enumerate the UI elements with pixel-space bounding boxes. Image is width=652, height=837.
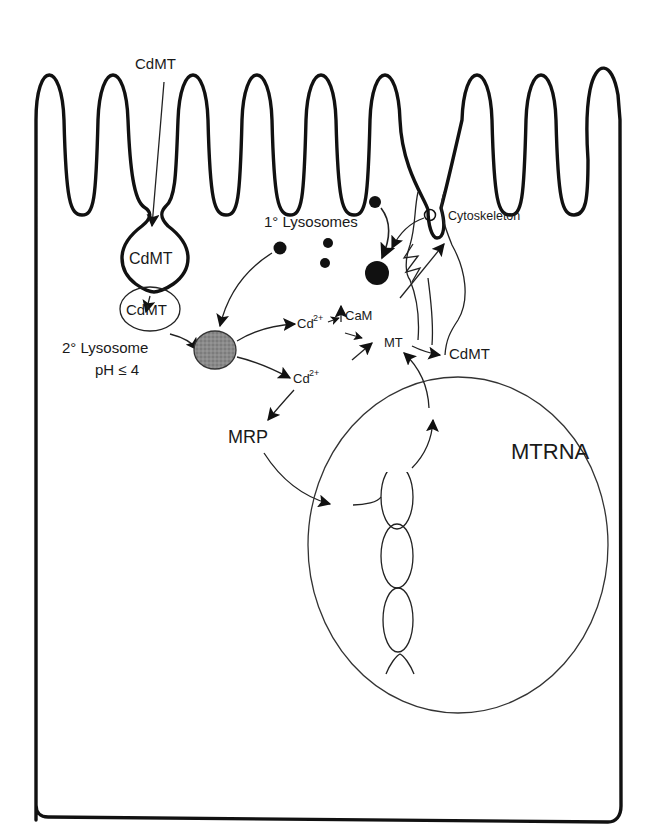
cd-upper-label: Cd (297, 316, 314, 331)
cd-lower-to-mt-arrow (352, 343, 372, 360)
mrna-strand (353, 462, 416, 674)
large-lysosome (365, 261, 389, 285)
primary-lysosome-dot (274, 242, 287, 255)
uptake-arrow (152, 82, 164, 226)
mrp-label: MRP (228, 427, 268, 447)
cdmt-cytosolic-label: CdMT (449, 345, 490, 362)
primary-lysosomes-label: 1° Lysosomes (264, 213, 358, 230)
cd-to-cam-arrow (328, 318, 339, 322)
cytoskeleton-fiber (428, 278, 433, 345)
cdmt-vesicle-label: CdMT (129, 250, 173, 267)
cd-upper-charge: 2+ (313, 313, 323, 323)
cytoskeleton-fiber (406, 192, 418, 340)
cdmt-endosome-label: CdMT (126, 301, 167, 318)
rna-to-mt-arrow (412, 420, 433, 468)
mt-to-cdmt-arrow (412, 346, 440, 355)
cell-diagram: CdMT CdMT CdMT 2° Lysosome pH ≤ 4 1° Lys… (0, 0, 652, 837)
lysosome-to-cd-lower-arrow (237, 357, 290, 378)
primary-lysosome-dot (320, 258, 330, 268)
cd-to-mrp-arrow (268, 390, 294, 420)
nucleus (308, 377, 608, 713)
cytoskeleton-label: Cytoskeleton (448, 209, 520, 223)
primary-lysosome-dot (323, 238, 333, 248)
cd-lower-charge: 2+ (309, 368, 319, 378)
vesicle-to-lysosome-arrow (392, 218, 424, 248)
secondary-lysosome-ph-label: pH ≤ 4 (95, 361, 139, 378)
mtrna-label: MTRNA (511, 439, 590, 464)
lysosome-fusion-arrow (381, 208, 389, 258)
cd-lower-label: Cd (293, 371, 310, 386)
cdmt-extracellular-label: CdMT (135, 55, 176, 72)
secondary-lysosome-label: 2° Lysosome (62, 339, 148, 356)
primary-lysosome-dot (369, 196, 381, 208)
cd-upper-to-mt-arrow (345, 333, 362, 338)
primary-to-secondary-arrow (220, 253, 272, 326)
cam-label: CaM (345, 308, 372, 323)
secondary-lysosome (194, 331, 236, 369)
mt-label: MT (384, 335, 403, 350)
lysosome-to-cd-upper-arrow (237, 324, 295, 341)
